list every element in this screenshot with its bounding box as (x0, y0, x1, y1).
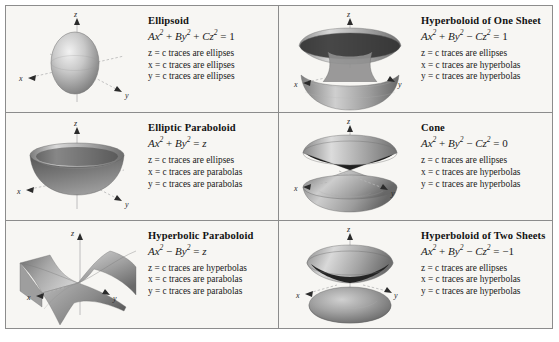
trace-line: y = c traces are ellipses (148, 71, 274, 83)
surface-equation: Ax2 + By2 + Cz2 = 1 (148, 30, 274, 43)
surface-title: Ellipsoid (148, 15, 274, 27)
trace-line: x = c traces are parabolas (148, 274, 274, 286)
svg-text:y: y (397, 80, 402, 89)
surface-equation: Ax2 + By2 − Cz2 = −1 (421, 245, 548, 258)
ellipsoid-text: Ellipsoid Ax2 + By2 + Cz2 = 1 z = c trac… (148, 6, 278, 83)
elliptic-paraboloid-text: Elliptic Paraboloid Ax2 + By2 = z z = c … (148, 113, 278, 190)
surface-cell-hyperboloid-of-one-sheet: z x (279, 6, 552, 113)
surface-equation: Ax2 + By2 = z (148, 137, 274, 150)
svg-text:z: z (346, 225, 351, 234)
svg-text:x: x (293, 184, 298, 193)
trace-line: y = c traces are hyperbolas (421, 71, 548, 83)
svg-text:x: x (16, 187, 21, 196)
cone-text: Cone Ax2 + By2 − Cz2 = 0 z = c traces ar… (421, 113, 552, 190)
trace-line: z = c traces are ellipses (421, 48, 548, 60)
trace-line: y = c traces are hyperbolas (421, 179, 548, 191)
trace-line: z = c traces are ellipses (148, 48, 274, 60)
surface-title: Hyperbolic Paraboloid (148, 230, 274, 242)
surface-cell-ellipsoid: z x y Ellipsoid Ax2 + By2 + Cz2 = 1 z = … (6, 6, 279, 113)
surface-cell-elliptic-paraboloid: z x y Elliptic Paraboloid Ax2 + By2 = z … (6, 113, 279, 220)
svg-text:y: y (124, 200, 129, 209)
trace-line: y = c traces are parabolas (148, 286, 274, 298)
svg-text:x: x (295, 291, 300, 300)
svg-text:x: x (18, 74, 23, 83)
trace-line: x = c traces are ellipses (148, 60, 274, 72)
surface-title: Hyperboloid of One Sheet (421, 15, 548, 27)
hyperbolic-paraboloid-text: Hyperbolic Paraboloid Ax2 − By2 = z z = … (148, 221, 278, 298)
hyperboloid-one-sheet-text: Hyperboloid of One Sheet Ax2 + By2 − Cz2… (421, 6, 552, 83)
trace-line: z = c traces are ellipses (148, 155, 274, 167)
quadric-surfaces-table: z x y Ellipsoid Ax2 + By2 + Cz2 = 1 z = … (5, 5, 553, 329)
ellipsoid-figure: z x y (6, 6, 148, 112)
svg-text:z: z (73, 10, 78, 19)
svg-text:z: z (346, 117, 351, 126)
svg-text:x: x (26, 293, 31, 302)
elliptic-paraboloid-figure: z x y (6, 113, 148, 219)
surface-cell-hyperbolic-paraboloid: z x y Hyperbolic Paraboloid (6, 221, 279, 328)
surface-equation: Ax2 + By2 − Cz2 = 1 (421, 30, 548, 43)
trace-line: x = c traces are hyperbolas (421, 274, 548, 286)
svg-text:z: z (70, 229, 75, 238)
trace-line: z = c traces are hyperbolas (148, 263, 274, 275)
trace-line: x = c traces are parabolas (148, 167, 274, 179)
hyperbolic-paraboloid-figure: z x y (6, 221, 148, 328)
cone-figure: z x y (279, 113, 421, 219)
trace-line: x = c traces are hyperbolas (421, 167, 548, 179)
svg-text:y: y (390, 189, 395, 198)
surface-cell-cone: z x y Cone (279, 113, 552, 220)
trace-line: z = c traces are ellipses (421, 155, 548, 167)
surface-title: Elliptic Paraboloid (148, 122, 274, 134)
hyperboloid-two-sheets-figure: z x y (279, 221, 421, 328)
trace-line: y = c traces are hyperbolas (421, 286, 548, 298)
svg-text:y: y (112, 294, 117, 303)
surface-equation: Ax2 − By2 = z (148, 245, 274, 258)
surface-title: Hyperboloid of Two Sheets (421, 230, 548, 242)
trace-line: x = c traces are hyperbolas (421, 60, 548, 72)
hyperboloid-two-sheets-text: Hyperboloid of Two Sheets Ax2 + By2 − Cz… (421, 221, 552, 298)
svg-text:z: z (346, 10, 351, 19)
hyperboloid-one-sheet-figure: z x (279, 6, 421, 112)
surface-title: Cone (421, 122, 548, 134)
trace-line: z = c traces are ellipses (421, 263, 548, 275)
surface-equation: Ax2 + By2 − Cz2 = 0 (421, 137, 548, 150)
svg-text:y: y (124, 91, 129, 100)
svg-text:x: x (293, 80, 298, 89)
trace-line: y = c traces are parabolas (148, 179, 274, 191)
svg-text:y: y (393, 291, 398, 300)
svg-text:z: z (73, 119, 78, 128)
surface-cell-hyperboloid-of-two-sheets: z x y Hyperboloid of Two Sheets (279, 221, 552, 328)
